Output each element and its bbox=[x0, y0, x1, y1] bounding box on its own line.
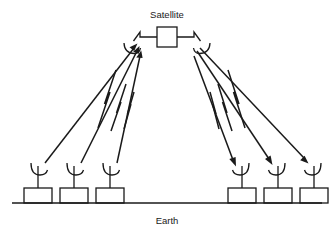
satellite-label: Satellite bbox=[150, 9, 184, 20]
satellite-communication-diagram: Satellite bbox=[0, 0, 335, 238]
downlink-station-3-dish-icon bbox=[305, 163, 322, 175]
satellite-right-dish-icon bbox=[194, 43, 211, 54]
uplink-station-1-dish-icon bbox=[31, 163, 48, 175]
downlink-beam-2-arrowhead bbox=[265, 156, 273, 165]
downlink-zigzag-marker-3 bbox=[228, 70, 245, 128]
downlink-beam-3 bbox=[200, 48, 304, 158]
downlink-station-1-box bbox=[228, 188, 256, 203]
satellite-left-arm bbox=[134, 32, 158, 41]
uplink-zigzag-marker-2 bbox=[111, 84, 126, 131]
downlink-beam-3-arrowhead bbox=[300, 156, 308, 164]
uplink-station-3-box bbox=[96, 188, 124, 203]
satellite-body bbox=[157, 27, 177, 47]
uplink-station-3 bbox=[96, 163, 124, 203]
uplink-beams-group bbox=[45, 44, 143, 164]
downlink-beam-1-arrowhead bbox=[229, 157, 236, 167]
downlink-beams-group bbox=[194, 48, 309, 167]
downlink-station-2-dish-icon bbox=[269, 163, 286, 175]
downlink-station-3 bbox=[300, 163, 328, 203]
downlink-stations-group bbox=[228, 163, 328, 203]
uplink-station-1-box bbox=[24, 188, 52, 203]
earth-label: Earth bbox=[156, 215, 179, 226]
uplink-station-2-box bbox=[60, 188, 88, 203]
satellite-right-arm bbox=[177, 32, 201, 41]
downlink-station-1 bbox=[228, 163, 256, 203]
uplink-stations-group bbox=[24, 163, 124, 203]
downlink-station-3-box bbox=[300, 188, 328, 203]
uplink-station-2 bbox=[60, 163, 88, 203]
diagram-canvas: Satellite bbox=[0, 0, 335, 238]
uplink-station-3-dish-icon bbox=[103, 163, 120, 175]
downlink-zigzag-marker-1 bbox=[210, 92, 219, 129]
downlink-beam-2 bbox=[197, 51, 269, 159]
uplink-zigzag-marker-3 bbox=[124, 92, 134, 129]
downlink-station-2-box bbox=[264, 188, 292, 203]
uplink-station-1 bbox=[24, 163, 52, 203]
downlink-station-2 bbox=[264, 163, 292, 203]
uplink-station-2-dish-icon bbox=[67, 163, 84, 175]
